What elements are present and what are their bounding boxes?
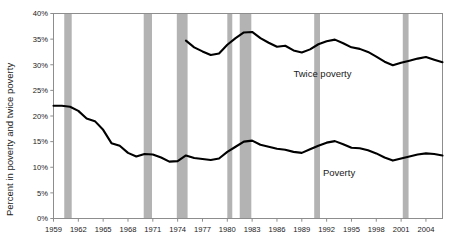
x-tick-label-1980: 1980 [219,225,236,234]
y-axis-ticks: 40%35%30%25%20%15%10%5%0% [33,9,54,223]
x-tick-label-1986: 1986 [269,225,286,234]
x-tick-label-1965: 1965 [95,225,112,234]
x-tick-label-1959: 1959 [45,225,62,234]
x-tick-label-1995: 1995 [343,225,360,234]
series-label-twice-poverty: Twice poverty [293,68,351,79]
x-tick-label-1971: 1971 [144,225,161,234]
x-tick-label-1989: 1989 [293,225,310,234]
x-tick-label-1983: 1983 [244,225,261,234]
y-tick-label-20%: 20% [33,112,48,121]
y-tick-label-35%: 35% [33,35,48,44]
y-tick-label-0%: 0% [37,214,48,223]
x-tick-label-2004: 2004 [417,225,434,234]
x-tick-label-1962: 1962 [70,225,87,234]
recession-band-recession-1973 [177,14,188,219]
y-tick-label-30%: 30% [33,61,48,70]
x-tick-label-2001: 2001 [393,225,410,234]
y-axis-title-text: Percent in poverty and twice poverty [4,63,15,216]
y-axis-title: Percent in poverty and twice poverty [4,63,15,216]
y-tick-label-25%: 25% [33,86,48,95]
x-tick-label-1974: 1974 [169,225,186,234]
x-tick-label-1968: 1968 [120,225,137,234]
recession-band-recession-1969 [144,14,152,219]
y-tick-label-10%: 10% [33,163,48,172]
x-tick-label-1977: 1977 [194,225,211,234]
series-label-poverty: Poverty [323,167,355,178]
recession-band-recession-2001 [403,14,409,219]
chart-canvas: Percent in poverty and twice poverty 40%… [0,0,458,249]
recession-band-recession-1960 [64,14,71,219]
recession-bands [64,14,408,219]
series-inline-labels: Twice povertyPoverty [293,68,355,178]
recession-band-recession-1981 [240,14,252,219]
y-tick-label-5%: 5% [37,189,48,198]
x-axis-ticks: 1959196219651968197119741977198019831986… [45,219,434,235]
poverty-line-chart: Percent in poverty and twice poverty 40%… [0,0,458,249]
x-tick-label-1992: 1992 [318,225,335,234]
x-tick-label-1998: 1998 [368,225,385,234]
y-tick-label-40%: 40% [33,9,48,18]
y-tick-label-15%: 15% [33,137,48,146]
